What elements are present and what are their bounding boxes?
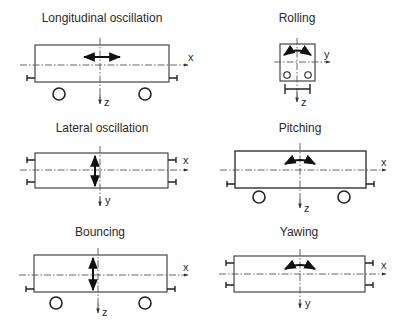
wheel-icon xyxy=(50,297,62,309)
car-body xyxy=(35,153,168,188)
panel-title: Longitudinal oscillation xyxy=(42,11,163,25)
wheel-icon xyxy=(253,191,265,203)
axis-label-v: z xyxy=(304,202,310,214)
buffer-icon xyxy=(27,75,35,81)
wheel-icon xyxy=(284,72,290,78)
wheel-icon xyxy=(139,297,151,309)
car-body xyxy=(235,151,366,188)
panel-title: Yawing xyxy=(280,225,318,239)
buffer-icon xyxy=(365,282,373,288)
axis-label-h: x xyxy=(183,154,189,166)
buffer-icon xyxy=(227,181,235,187)
axis-label-v: z xyxy=(301,96,307,108)
axis-label-h: x xyxy=(381,156,387,168)
axis-label-h: y xyxy=(324,48,330,60)
panel-yawing: Yawing x y xyxy=(219,225,387,309)
wheel-icon xyxy=(139,88,151,100)
panel-rolling: Rolling y z xyxy=(274,11,330,108)
axis-label-v: z xyxy=(104,96,110,108)
buffer-icon xyxy=(226,282,234,288)
buffer-icon xyxy=(27,179,35,185)
axis-label-v: y xyxy=(305,297,311,309)
buffer-icon xyxy=(226,260,234,266)
axis-label-h: x xyxy=(183,261,189,273)
wheel-icon xyxy=(53,88,65,100)
buffer-icon xyxy=(27,157,35,163)
buffer-icon xyxy=(365,260,373,266)
panel-pitching: Pitching x z xyxy=(220,121,387,214)
buffer-icon xyxy=(168,157,176,163)
rolling-motion-arrow-icon xyxy=(284,51,311,56)
axis-label-v: y xyxy=(105,194,111,206)
axis-label-v: z xyxy=(102,306,108,318)
buffer-icon xyxy=(167,286,175,292)
buffer-icon xyxy=(26,286,34,292)
buffer-icon xyxy=(169,75,177,81)
panel-lateral: Lateral oscillation x y xyxy=(20,121,189,206)
wheel-icon xyxy=(305,72,311,78)
panel-title: Bouncing xyxy=(75,225,125,239)
panel-title: Lateral oscillation xyxy=(56,121,149,135)
buffer-icon xyxy=(366,181,374,187)
car-body xyxy=(35,45,169,82)
panel-bouncing: Bouncing x z xyxy=(19,225,189,318)
wheel-icon xyxy=(338,191,350,203)
vehicle-oscillation-diagram: Longitudinal oscillation x z Rolling y z… xyxy=(0,0,406,330)
axis-label-h: x xyxy=(188,51,194,63)
buffer-icon xyxy=(168,179,176,185)
panel-title: Pitching xyxy=(279,121,322,135)
panel-longitudinal: Longitudinal oscillation x z xyxy=(20,11,194,108)
car-body xyxy=(34,255,167,292)
panel-title: Rolling xyxy=(279,11,316,25)
axis-label-h: x xyxy=(381,259,387,271)
